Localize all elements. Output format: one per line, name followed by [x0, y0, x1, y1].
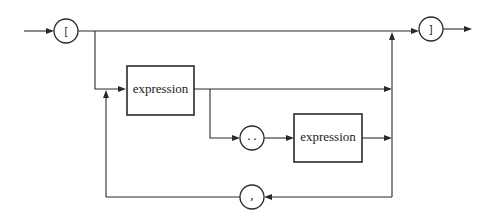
branch-to-expression-line [95, 31, 124, 89]
expression-entry-arrow-icon [118, 86, 126, 92]
range-entry-arrow-icon [232, 135, 240, 141]
merge-arrow-icon [384, 86, 392, 92]
loop-up-arrow-icon [103, 90, 109, 98]
merge-up-arrow-icon [389, 32, 395, 40]
second-expression-label: expression [300, 129, 356, 144]
terminal-open-bracket-label: [ [63, 26, 69, 37]
terminal-close-bracket: ] [419, 17, 443, 41]
syntax-diagram: [ expression .. expression , [0, 0, 494, 224]
second-merge-arrow-icon [384, 135, 392, 141]
terminal-comma: , [240, 185, 264, 209]
terminal-range-dots-label: .. [246, 131, 258, 142]
entry-arrow-icon [46, 28, 54, 34]
comma-entry-arrow-icon [264, 194, 272, 200]
exit-arrow-icon [464, 26, 472, 32]
branch-to-range-line [210, 89, 238, 138]
terminal-comma-label: , [249, 191, 255, 202]
first-expression-label: expression [133, 81, 189, 96]
second-expression-arrow-icon [286, 135, 294, 141]
nonterminal-second-expression: expression [294, 114, 362, 162]
close-bracket-arrow-icon [411, 28, 419, 34]
terminal-open-bracket: [ [54, 19, 78, 43]
terminal-close-bracket-label: ] [428, 24, 434, 35]
terminal-range-dots: .. [240, 126, 264, 150]
nonterminal-first-expression: expression [127, 66, 194, 115]
